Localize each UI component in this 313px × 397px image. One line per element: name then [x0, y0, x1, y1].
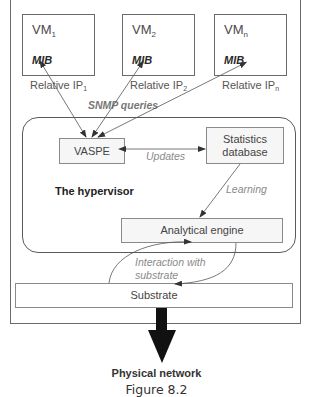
physical-network-label: Physical network [0, 367, 313, 379]
connector-arrows [0, 0, 313, 397]
figure-caption: Figure 8.2 [0, 382, 313, 397]
